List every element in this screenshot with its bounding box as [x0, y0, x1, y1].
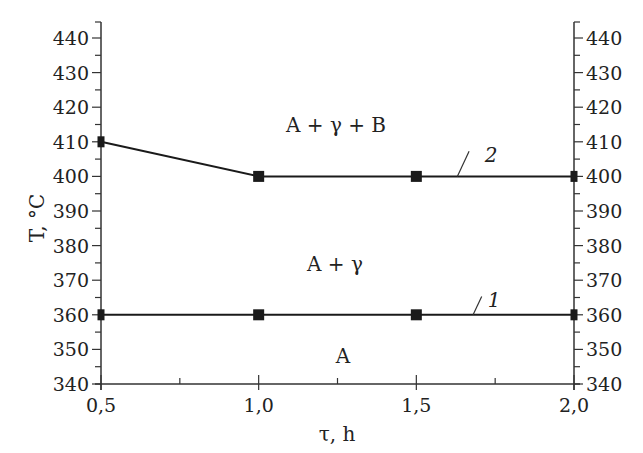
- y-tick-label-right: 420: [586, 96, 622, 118]
- series-2-marker: [411, 171, 422, 182]
- y-tick-label-right: 400: [586, 165, 622, 187]
- y-tick-label-left: 380: [53, 235, 89, 257]
- y-tick-label-left: 360: [53, 304, 89, 326]
- y-tick-label-right: 350: [586, 338, 622, 360]
- y-tick-label-right: 380: [586, 235, 622, 257]
- series-2-marker: [571, 171, 578, 182]
- y-tick-label-left: 350: [53, 338, 89, 360]
- phase-diagram-chart: 3403403503503603603703703803803903904004…: [0, 0, 643, 453]
- x-tick-label: 1,5: [401, 394, 431, 416]
- y-tick-label-left: 370: [53, 269, 89, 291]
- y-tick-label-right: 360: [586, 304, 622, 326]
- leader-line-2: [457, 151, 469, 176]
- region-label-a-gamma-b: A + γ + B: [285, 113, 386, 137]
- series-2-marker: [98, 136, 105, 147]
- series-2-marker: [253, 171, 264, 182]
- x-tick-label: 2,0: [559, 394, 589, 416]
- y-tick-label-left: 390: [53, 200, 89, 222]
- y-tick-label-left: 420: [53, 96, 89, 118]
- y-tick-label-left: 400: [53, 165, 89, 187]
- y-tick-label-right: 340: [586, 373, 622, 395]
- y-tick-label-left: 410: [53, 131, 89, 153]
- y-tick-label-right: 370: [586, 269, 622, 291]
- y-tick-label-left: 430: [53, 62, 89, 84]
- x-tick-label: 0,5: [86, 394, 116, 416]
- region-label-a-gamma: A + γ: [306, 252, 363, 276]
- y-tick-label-right: 410: [586, 131, 622, 153]
- series-1-marker: [411, 309, 422, 320]
- y-tick-label-left: 340: [53, 373, 89, 395]
- y-tick-label-right: 440: [586, 27, 622, 49]
- series-2-line: [101, 142, 574, 177]
- x-tick-label: 1,0: [244, 394, 274, 416]
- curve-label-1: 1: [488, 288, 501, 312]
- region-label-a: A: [335, 344, 351, 368]
- y-tick-label-left: 440: [53, 27, 89, 49]
- data-series: [98, 136, 578, 320]
- y-tick-label-right: 430: [586, 62, 622, 84]
- series-1-marker: [571, 309, 578, 320]
- series-1-marker: [98, 309, 105, 320]
- y-axis-title: T, °C: [25, 194, 49, 242]
- y-tick-label-right: 390: [586, 200, 622, 222]
- curve-label-2: 2: [484, 143, 498, 167]
- series-1-marker: [253, 309, 264, 320]
- leader-line-1: [473, 297, 482, 315]
- x-axis-title: τ, h: [319, 422, 356, 446]
